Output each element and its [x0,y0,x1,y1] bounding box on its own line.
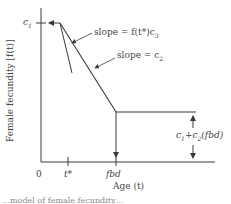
y-axis-label: Female fecundity [f(t)] [5,39,15,142]
x-tick-fbd: fbd [106,170,121,179]
x-tick-0: 0 [36,170,42,179]
slope1-annotation: slope = f(t*)c3 [94,28,159,39]
slope2-annotation: slope = c2 [117,51,163,62]
slope1-leader [72,33,92,43]
x-tick-tstar: t* [64,170,72,179]
c1-label: c1 [23,18,32,29]
steep-slope-line [60,23,72,73]
figure-caption: …model of female fecundity… [2,196,123,204]
slope2-leader [95,58,115,68]
x-axis-label: Age (t) [113,182,144,191]
plateau-annotation: c1+c2(fbd) [176,131,223,142]
